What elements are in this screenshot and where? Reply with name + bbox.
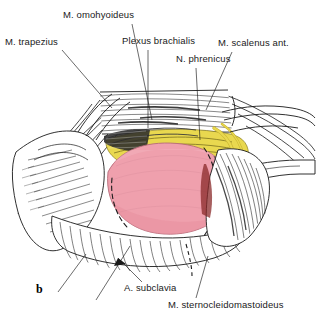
label-m-sternocleidomastoideus: M. sternocleidomastoideus xyxy=(168,299,284,310)
label-plexus-brachialis: Plexus brachialis xyxy=(122,35,195,46)
label-n-phrenicus: N. phrenicus xyxy=(176,53,231,64)
label-m-scalenus-ant: M. scalenus ant. xyxy=(218,37,289,48)
label-m-trapezius: M. trapezius xyxy=(5,36,58,47)
surgical-anatomy-figure: M. trapezius M. omohyoideus Plexus brach… xyxy=(0,0,316,322)
figure-marker: b xyxy=(36,282,43,296)
label-m-omohyoideus: M. omohyoideus xyxy=(63,9,134,20)
label-a-subclavia: A. subclavia xyxy=(124,282,177,293)
